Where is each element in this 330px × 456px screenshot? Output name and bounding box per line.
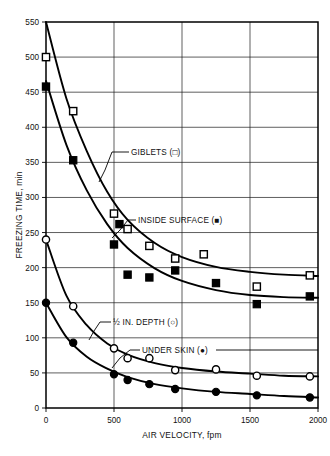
data-point [253, 301, 260, 308]
data-point [306, 394, 313, 401]
data-point [124, 271, 131, 278]
data-point [146, 355, 153, 362]
y-tick-label: 400 [25, 123, 39, 132]
data-point [306, 272, 313, 279]
data-point [70, 157, 77, 164]
data-point [172, 385, 179, 392]
data-point [42, 299, 49, 306]
data-point [110, 371, 117, 378]
data-point [110, 210, 117, 217]
chart-figure: 050100150200250300350400450500550 050010… [0, 0, 330, 456]
data-point [172, 267, 179, 274]
data-point [124, 376, 131, 383]
annotation-under-skin: UNDER SKIN (●) [142, 346, 208, 355]
x-tick-label: 500 [107, 416, 121, 425]
x-tick-label: 1500 [241, 416, 260, 425]
data-point [42, 83, 49, 90]
data-point [70, 303, 77, 310]
data-point [212, 279, 219, 286]
y-tick-label: 50 [30, 369, 40, 378]
y-tick-label: 500 [25, 53, 39, 62]
annotation-giblets: GIBLETS (□) [131, 148, 181, 157]
y-tick-label: 200 [25, 264, 39, 273]
y-tick-label: 100 [25, 334, 39, 343]
data-point [146, 242, 153, 249]
data-point [70, 339, 77, 346]
y-tick-label: 150 [25, 299, 39, 308]
annotation-half-in-depth: ½ IN. DEPTH (○) [113, 318, 178, 327]
y-tick-label: 0 [34, 404, 39, 413]
y-tick-label: 250 [25, 229, 39, 238]
y-axis-title: FREEZING TIME, min [14, 171, 24, 258]
annotation-inside-surface: INSIDE SURFACE (■) [138, 216, 223, 225]
data-point [172, 367, 179, 374]
data-point [146, 274, 153, 281]
x-tick-label: 1000 [173, 416, 192, 425]
data-point [110, 241, 117, 248]
y-tick-label: 300 [25, 193, 39, 202]
data-point [253, 372, 260, 379]
data-point [110, 345, 117, 352]
freezing-time-chart: 050100150200250300350400450500550 050010… [0, 0, 330, 456]
y-tick-label: 350 [25, 158, 39, 167]
y-tick-label: 550 [25, 18, 39, 27]
data-point [253, 392, 260, 399]
data-point [146, 381, 153, 388]
data-point [70, 108, 77, 115]
y-tick-label: 450 [25, 88, 39, 97]
data-point [200, 251, 207, 258]
data-point [172, 255, 179, 262]
x-axis-title: AIR VELOCITY, fpm [142, 430, 222, 440]
data-point [124, 355, 131, 362]
y-tick-labels: 050100150200250300350400450500550 [25, 18, 39, 413]
data-point [42, 53, 49, 60]
data-point [116, 221, 123, 228]
x-tick-label: 0 [44, 416, 49, 425]
x-tick-labels: 0500100015002000 [44, 416, 328, 425]
data-point [124, 225, 131, 232]
data-point [253, 283, 260, 290]
data-point [306, 293, 313, 300]
data-point [306, 373, 313, 380]
data-point [212, 366, 219, 373]
x-tick-label: 2000 [309, 416, 328, 425]
data-point [212, 388, 219, 395]
data-point [42, 236, 49, 243]
